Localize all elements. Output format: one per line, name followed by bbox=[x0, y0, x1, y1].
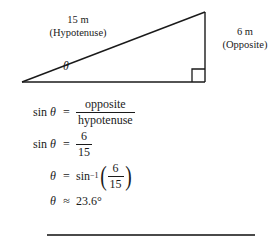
fraction-denominator: 15 bbox=[76, 144, 92, 159]
theta-variable: θ bbox=[50, 137, 56, 151]
equation-inverse-sine: θ = sin−1 ( 6 15 ) bbox=[0, 162, 280, 191]
open-paren: ( bbox=[100, 165, 106, 187]
result-rhs: 23.6° bbox=[73, 195, 102, 207]
equals-sign: = bbox=[60, 106, 73, 118]
hypotenuse-role: (Hypotenuse) bbox=[32, 27, 124, 40]
fraction-numerator: 6 bbox=[79, 130, 89, 144]
fraction-denominator: hypotenuse bbox=[76, 112, 135, 127]
solution-steps: sin θ = opposite hypotenuse sin θ = 6 15… bbox=[0, 98, 280, 209]
inverse-lhs: θ bbox=[0, 170, 60, 182]
opposite-role: (Opposite) bbox=[212, 39, 278, 52]
six-over-fifteen-fraction: 6 15 bbox=[76, 130, 92, 159]
inverse-rhs: sin−1 ( 6 15 ) bbox=[73, 162, 133, 191]
fraction-denominator: 15 bbox=[108, 176, 124, 191]
sin-value-rhs: 6 15 bbox=[73, 130, 92, 159]
approximately-equals-sign: ≈ bbox=[60, 195, 73, 207]
theta-variable: θ bbox=[50, 105, 56, 119]
close-paren: ) bbox=[125, 165, 131, 187]
opposite-over-hypotenuse-fraction: opposite hypotenuse bbox=[76, 98, 135, 127]
sin-function-name: sin bbox=[33, 137, 47, 151]
result-lhs: θ bbox=[0, 195, 60, 207]
hypotenuse-label: 15 m (Hypotenuse) bbox=[32, 14, 124, 39]
theta-angle-label: θ bbox=[57, 60, 75, 73]
equals-sign: = bbox=[60, 138, 73, 150]
arcsin-function-name: sin bbox=[76, 170, 90, 182]
six-over-fifteen-fraction: 6 15 bbox=[108, 162, 124, 191]
sin-definition-lhs: sin θ bbox=[0, 106, 60, 118]
theta-variable: θ bbox=[50, 169, 56, 183]
opposite-label: 6 m (Opposite) bbox=[212, 26, 278, 51]
triangle-diagram: 15 m (Hypotenuse) 6 m (Opposite) θ bbox=[0, 0, 280, 96]
sin-function-name: sin bbox=[33, 105, 47, 119]
sin-definition-rhs: opposite hypotenuse bbox=[73, 98, 135, 127]
sin-value-lhs: sin θ bbox=[0, 138, 60, 150]
theta-variable: θ bbox=[50, 194, 56, 208]
result-value: 23.6° bbox=[76, 195, 102, 207]
equation-sin-definition: sin θ = opposite hypotenuse bbox=[0, 98, 280, 127]
opposite-length: 6 m bbox=[212, 26, 278, 39]
fraction-numerator: opposite bbox=[83, 98, 128, 112]
right-angle-marker bbox=[192, 69, 205, 82]
equation-result: θ ≈ 23.6° bbox=[0, 195, 280, 207]
equation-sin-value: sin θ = 6 15 bbox=[0, 130, 280, 159]
bottom-divider bbox=[47, 234, 255, 236]
inverse-exponent: −1 bbox=[90, 172, 99, 180]
fraction-numerator: 6 bbox=[111, 162, 121, 176]
equals-sign: = bbox=[60, 170, 73, 182]
hypotenuse-length: 15 m bbox=[32, 14, 124, 27]
